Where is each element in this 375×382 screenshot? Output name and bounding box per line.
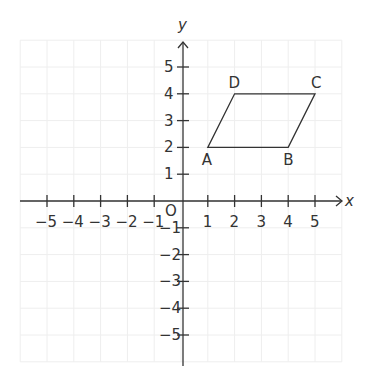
x-tick-label: −5	[35, 213, 57, 231]
vertex-label-a: A	[202, 151, 213, 169]
vertex-label-b: B	[283, 151, 293, 169]
x-tick-label: −4	[62, 213, 84, 231]
y-axis-label: y	[177, 16, 188, 34]
y-tick-label: 1	[164, 165, 174, 183]
x-axis-label: x	[344, 192, 354, 210]
x-tick-label: −2	[115, 213, 137, 231]
vertex-label-d: D	[229, 74, 241, 92]
origin-label: O	[165, 202, 177, 220]
x-tick-label: −3	[89, 213, 111, 231]
y-tick-label: 3	[164, 112, 174, 130]
vertex-label-c: C	[311, 74, 321, 92]
y-tick-label: −1	[159, 219, 181, 237]
coordinate-plane: xyO −5−4−3−2−11234554321−1−2−3−4−5 ABCD	[0, 0, 375, 382]
x-tick-label: 4	[283, 213, 293, 231]
x-tick-label: 5	[310, 213, 320, 231]
x-tick-label: 3	[256, 213, 266, 231]
y-tick-label: 2	[164, 138, 174, 156]
y-tick-label: −3	[159, 272, 181, 290]
x-tick-label: 1	[203, 213, 213, 231]
y-tick-label: −2	[159, 246, 181, 264]
y-tick-label: 4	[164, 85, 174, 103]
y-tick-label: −5	[159, 326, 181, 344]
y-tick-label: 5	[164, 58, 174, 76]
axes: xyO	[20, 16, 354, 366]
y-tick-label: −4	[159, 299, 181, 317]
x-tick-label: 2	[230, 213, 240, 231]
